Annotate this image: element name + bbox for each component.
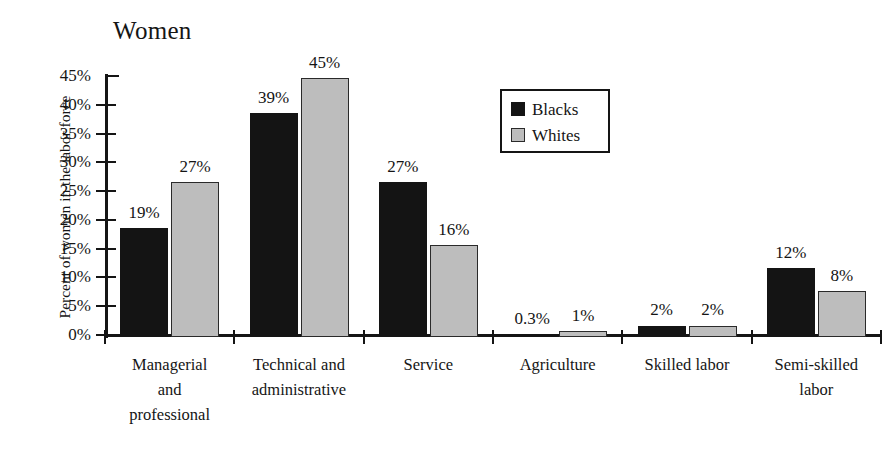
category-label-line: professional	[93, 402, 246, 427]
y-tick-label: 10%	[33, 268, 91, 285]
bar-value-label: 19%	[106, 203, 182, 222]
bar-value-label: 1%	[545, 306, 621, 325]
legend-label-whites: Whites	[532, 126, 580, 145]
bar-value-label: 2%	[675, 300, 751, 319]
y-tick-label: 45%	[33, 67, 91, 84]
chart-title: Women	[113, 16, 192, 46]
legend-item-blacks: Blacks	[511, 96, 608, 122]
bar-value-label: 27%	[157, 157, 233, 176]
bar-value-label: 45%	[287, 53, 363, 72]
bar-value-label: 8%	[804, 266, 880, 285]
y-tick-label: 30%	[33, 153, 91, 170]
bar-chart: Women Percent of women in the labor forc…	[0, 0, 889, 452]
bar-blacks-0	[120, 228, 168, 337]
category-label-line: administrative	[222, 377, 375, 402]
bar-whites-5	[818, 291, 866, 337]
bar-blacks-4	[638, 326, 686, 338]
bar-blacks-1	[250, 113, 298, 337]
y-tick-label: 40%	[33, 96, 91, 113]
bar-blacks-3	[508, 334, 556, 337]
y-tick-label: 15%	[33, 240, 91, 257]
y-tick-label: 20%	[33, 211, 91, 228]
bar-whites-4	[689, 326, 737, 338]
plot-area	[105, 76, 881, 336]
bar-whites-3	[559, 331, 607, 337]
bar-blacks-2	[379, 182, 427, 337]
legend: Blacks Whites	[500, 89, 610, 153]
y-tick-label: 5%	[33, 297, 91, 314]
bar-whites-1	[301, 78, 349, 337]
bar-value-label: 39%	[236, 88, 312, 107]
legend-swatch-whites-icon	[511, 128, 525, 142]
bar-whites-2	[430, 245, 478, 337]
category-label-line: labor	[740, 377, 889, 402]
category-label-5: Semi-skilledlabor	[740, 352, 889, 402]
bar-value-label: 16%	[416, 220, 492, 239]
category-label-line: Semi-skilled	[740, 352, 889, 377]
y-tick-label: 0%	[33, 326, 91, 343]
legend-swatch-blacks-icon	[511, 102, 525, 116]
bar-value-label: 27%	[365, 157, 441, 176]
y-tick-label: 25%	[33, 182, 91, 199]
legend-item-whites: Whites	[511, 122, 608, 148]
legend-label-blacks: Blacks	[532, 100, 578, 119]
y-tick-label: 35%	[33, 125, 91, 142]
bar-value-label: 12%	[753, 243, 829, 262]
